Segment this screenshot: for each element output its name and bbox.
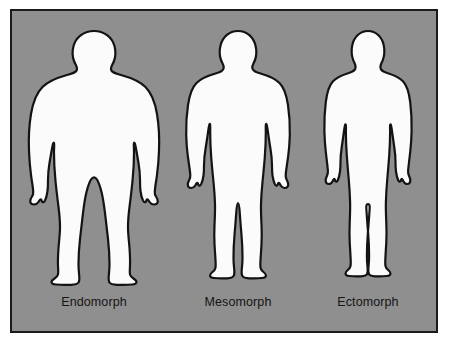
body-type-ectomorph: Ectomorph — [312, 21, 424, 311]
body-type-endomorph: Endomorph — [20, 21, 168, 311]
ectomorph-silhouette-icon — [312, 21, 424, 289]
body-type-label: Ectomorph — [312, 295, 424, 309]
figure-row: Endomorph Mesomorph Ectomorph — [12, 11, 436, 331]
body-type-label: Mesomorph — [180, 295, 296, 309]
mesomorph-silhouette-icon — [180, 21, 296, 289]
diagram-panel: Endomorph Mesomorph Ectomorph — [10, 9, 438, 333]
endomorph-silhouette-icon — [20, 21, 168, 289]
body-type-mesomorph: Mesomorph — [180, 21, 296, 311]
somatotype-diagram: Endomorph Mesomorph Ectomorph — [0, 0, 452, 346]
body-type-label: Endomorph — [20, 295, 168, 309]
